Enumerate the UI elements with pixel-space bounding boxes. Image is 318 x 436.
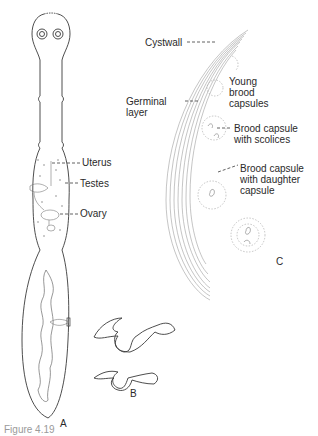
label-young-brood-line3: capsules <box>229 98 268 109</box>
label-germinal-layer-line2: layer <box>126 107 148 118</box>
panel-label-c: C <box>276 256 283 267</box>
label-young-brood-line2: brood <box>229 87 255 98</box>
label-brood-scolices-line1: Brood capsule <box>234 123 298 134</box>
tapeworm-drawing <box>22 13 70 418</box>
panel-label-b: B <box>130 388 137 399</box>
label-brood-scolices-line2: with scolices <box>234 134 290 145</box>
panel-label-a: A <box>60 418 67 429</box>
hooks-drawing <box>94 318 175 391</box>
cyst-wall-drawing <box>166 30 248 300</box>
label-uterus: Uterus <box>82 157 111 168</box>
label-cystwall: Cystwall <box>145 37 182 48</box>
label-young-brood-line1: Young <box>229 76 257 87</box>
diagram-figure <box>0 0 318 436</box>
label-germinal-layer-line1: Germinal <box>126 96 167 107</box>
label-ovary: Ovary <box>80 208 107 219</box>
label-brood-daughter-line3: capsule <box>240 185 274 196</box>
figure-caption: Figure 4.19 <box>4 424 55 436</box>
label-brood-daughter-line1: Brood capsule <box>240 163 304 174</box>
label-testes: Testes <box>80 178 109 189</box>
label-brood-daughter-line2: with daughter <box>240 174 300 185</box>
